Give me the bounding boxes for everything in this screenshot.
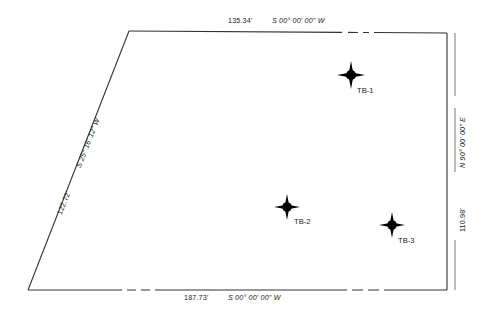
course-label-south-distance: 187.73' [184, 294, 208, 301]
course-label-north-bearing: S 00° 00' 00" W [272, 17, 325, 24]
benchmark-label-tb-2: TB-2 [294, 218, 310, 226]
boundary-line-north [129, 31, 447, 33]
course-label-east-bearing: N 90° 00' 00" E [459, 117, 466, 168]
plat-geometry [0, 0, 481, 317]
benchmark-marker-tb-1[interactable] [337, 61, 365, 89]
benchmark-label-tb-1: TB-1 [357, 87, 373, 95]
parcel-boundary [28, 31, 447, 290]
point-dot-icon [387, 220, 397, 230]
course-label-east-distance: 110.98' [459, 208, 466, 232]
benchmark-label-tb-3: TB-3 [398, 237, 414, 245]
course-label-north-distance: 135.34' [228, 17, 252, 24]
course-label-south-bearing: S 00° 00' 00" W [228, 294, 281, 301]
point-dot-icon [282, 202, 292, 212]
benchmark-markers [274, 61, 405, 238]
survey-plat-drawing: 135.34' S 00° 00' 00" W 187.73' S 00° 00… [0, 0, 481, 317]
point-dot-icon [346, 70, 356, 80]
benchmark-marker-tb-3[interactable] [379, 212, 405, 238]
